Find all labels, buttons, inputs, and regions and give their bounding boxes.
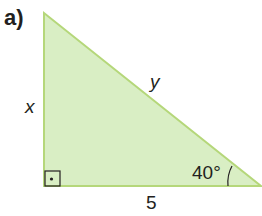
side-x-label: x — [25, 97, 35, 116]
problem-label: a) — [4, 7, 24, 29]
side-base-label: 5 — [146, 193, 157, 212]
right-triangle — [44, 13, 261, 186]
angle-label: 40° — [192, 163, 221, 182]
hypotenuse-y-label: y — [150, 72, 160, 91]
right-angle-dot — [50, 177, 53, 180]
triangle-diagram — [0, 0, 262, 216]
